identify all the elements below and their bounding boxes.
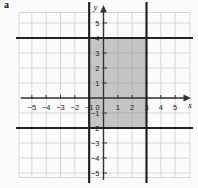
- y-tick-label: −4: [91, 154, 100, 163]
- x-tick-label: 3: [144, 103, 148, 112]
- x-tick-label: 2: [130, 103, 134, 112]
- x-tick-label: 1: [116, 103, 120, 112]
- y-tick-label: −3: [91, 139, 100, 148]
- y-tick-label: −2: [91, 124, 100, 133]
- x-axis-label: x: [187, 100, 192, 110]
- x-tick-label: 4: [159, 103, 163, 112]
- coordinate-grid: −5−4−3−2−101234554321−1−2−3−4−5xy: [0, 0, 198, 188]
- x-tick-label: −3: [56, 103, 65, 112]
- y-tick-label: 3: [95, 49, 99, 58]
- y-tick-label: −5: [91, 169, 100, 178]
- y-tick-label: −1: [91, 109, 100, 118]
- y-tick-label: 2: [95, 64, 99, 73]
- y-axis-arrow-icon: [100, 5, 107, 13]
- x-tick-label: −2: [71, 103, 80, 112]
- x-tick-label: −5: [28, 103, 37, 112]
- coordinate-plane-figure: a −5−4−3−2−101234554321−1−2−3−4−5xy: [0, 0, 198, 188]
- y-tick-label: 4: [95, 34, 99, 43]
- y-axis-label: y: [93, 2, 98, 12]
- y-tick-label: 1: [95, 79, 99, 88]
- y-tick-label: 5: [95, 19, 99, 28]
- x-tick-label: 5: [173, 103, 177, 112]
- x-tick-label: −4: [42, 103, 51, 112]
